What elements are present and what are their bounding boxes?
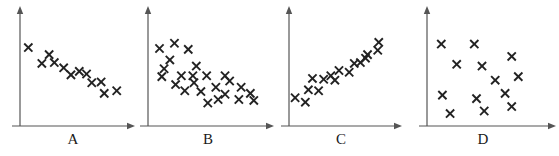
data-point-marker — [50, 58, 58, 66]
data-point-marker — [304, 86, 312, 94]
data-point-marker — [88, 79, 96, 87]
data-point-marker — [197, 88, 205, 96]
data-point-marker — [160, 65, 168, 73]
data-point-marker — [375, 38, 383, 46]
data-point-marker — [113, 87, 121, 95]
data-point-marker — [97, 78, 105, 86]
data-point-marker — [172, 80, 180, 88]
data-point-marker — [314, 87, 322, 95]
y-axis-arrow-icon — [145, 6, 151, 14]
data-point-marker — [480, 107, 488, 115]
data-point-marker — [214, 95, 222, 103]
data-point-marker — [374, 46, 382, 54]
x-axis-arrow-icon — [394, 123, 402, 129]
data-point-marker — [166, 56, 174, 64]
panel-label-d: D — [463, 132, 503, 147]
panel-label-b: B — [188, 132, 228, 147]
data-point-marker — [100, 89, 108, 97]
data-point-marker — [212, 83, 220, 91]
data-point-marker — [235, 95, 243, 103]
data-point-marker — [82, 70, 90, 78]
data-point-marker — [453, 60, 461, 68]
data-point-marker — [237, 83, 245, 91]
data-point-marker — [67, 71, 75, 79]
data-point-marker — [438, 91, 446, 99]
data-point-marker — [181, 87, 189, 95]
data-point-marker — [478, 62, 486, 70]
data-point-marker — [221, 90, 229, 98]
scatterplot-figure: A B C D — [0, 0, 559, 156]
data-point-marker — [170, 39, 178, 47]
data-point-marker — [335, 66, 343, 74]
x-axis-arrow-icon — [127, 123, 135, 129]
data-point-marker — [472, 95, 480, 103]
panel-label-a: A — [53, 132, 93, 147]
y-axis-arrow-icon — [17, 6, 23, 14]
data-point-marker — [446, 110, 454, 118]
data-point-marker — [226, 77, 234, 85]
data-point-marker — [158, 73, 166, 81]
data-point-marker — [155, 44, 163, 52]
y-axis-arrow-icon — [424, 6, 430, 14]
data-point-marker — [514, 73, 522, 81]
data-point-marker — [75, 67, 83, 75]
data-point-marker — [291, 94, 299, 102]
data-point-marker — [24, 44, 32, 52]
data-point-marker — [301, 98, 309, 106]
data-point-marker — [203, 72, 211, 80]
data-point-marker — [508, 52, 516, 60]
x-axis-arrow-icon — [266, 123, 274, 129]
data-point-marker — [177, 72, 185, 80]
data-point-marker — [38, 59, 46, 67]
x-axis-arrow-icon — [548, 123, 556, 129]
data-point-marker — [437, 40, 445, 48]
data-point-marker — [60, 64, 68, 72]
data-point-marker — [361, 54, 369, 62]
data-point-marker — [184, 45, 192, 53]
data-point-marker — [45, 51, 53, 59]
data-point-marker — [345, 68, 353, 76]
data-point-marker — [192, 62, 200, 70]
data-point-marker — [470, 40, 478, 48]
data-point-marker — [308, 74, 316, 82]
data-point-marker — [501, 89, 509, 97]
data-point-marker — [204, 99, 212, 107]
data-point-marker — [508, 102, 516, 110]
panel-label-c: C — [321, 132, 361, 147]
y-axis-arrow-icon — [286, 6, 292, 14]
data-point-marker — [491, 76, 499, 84]
data-point-marker — [190, 79, 198, 87]
